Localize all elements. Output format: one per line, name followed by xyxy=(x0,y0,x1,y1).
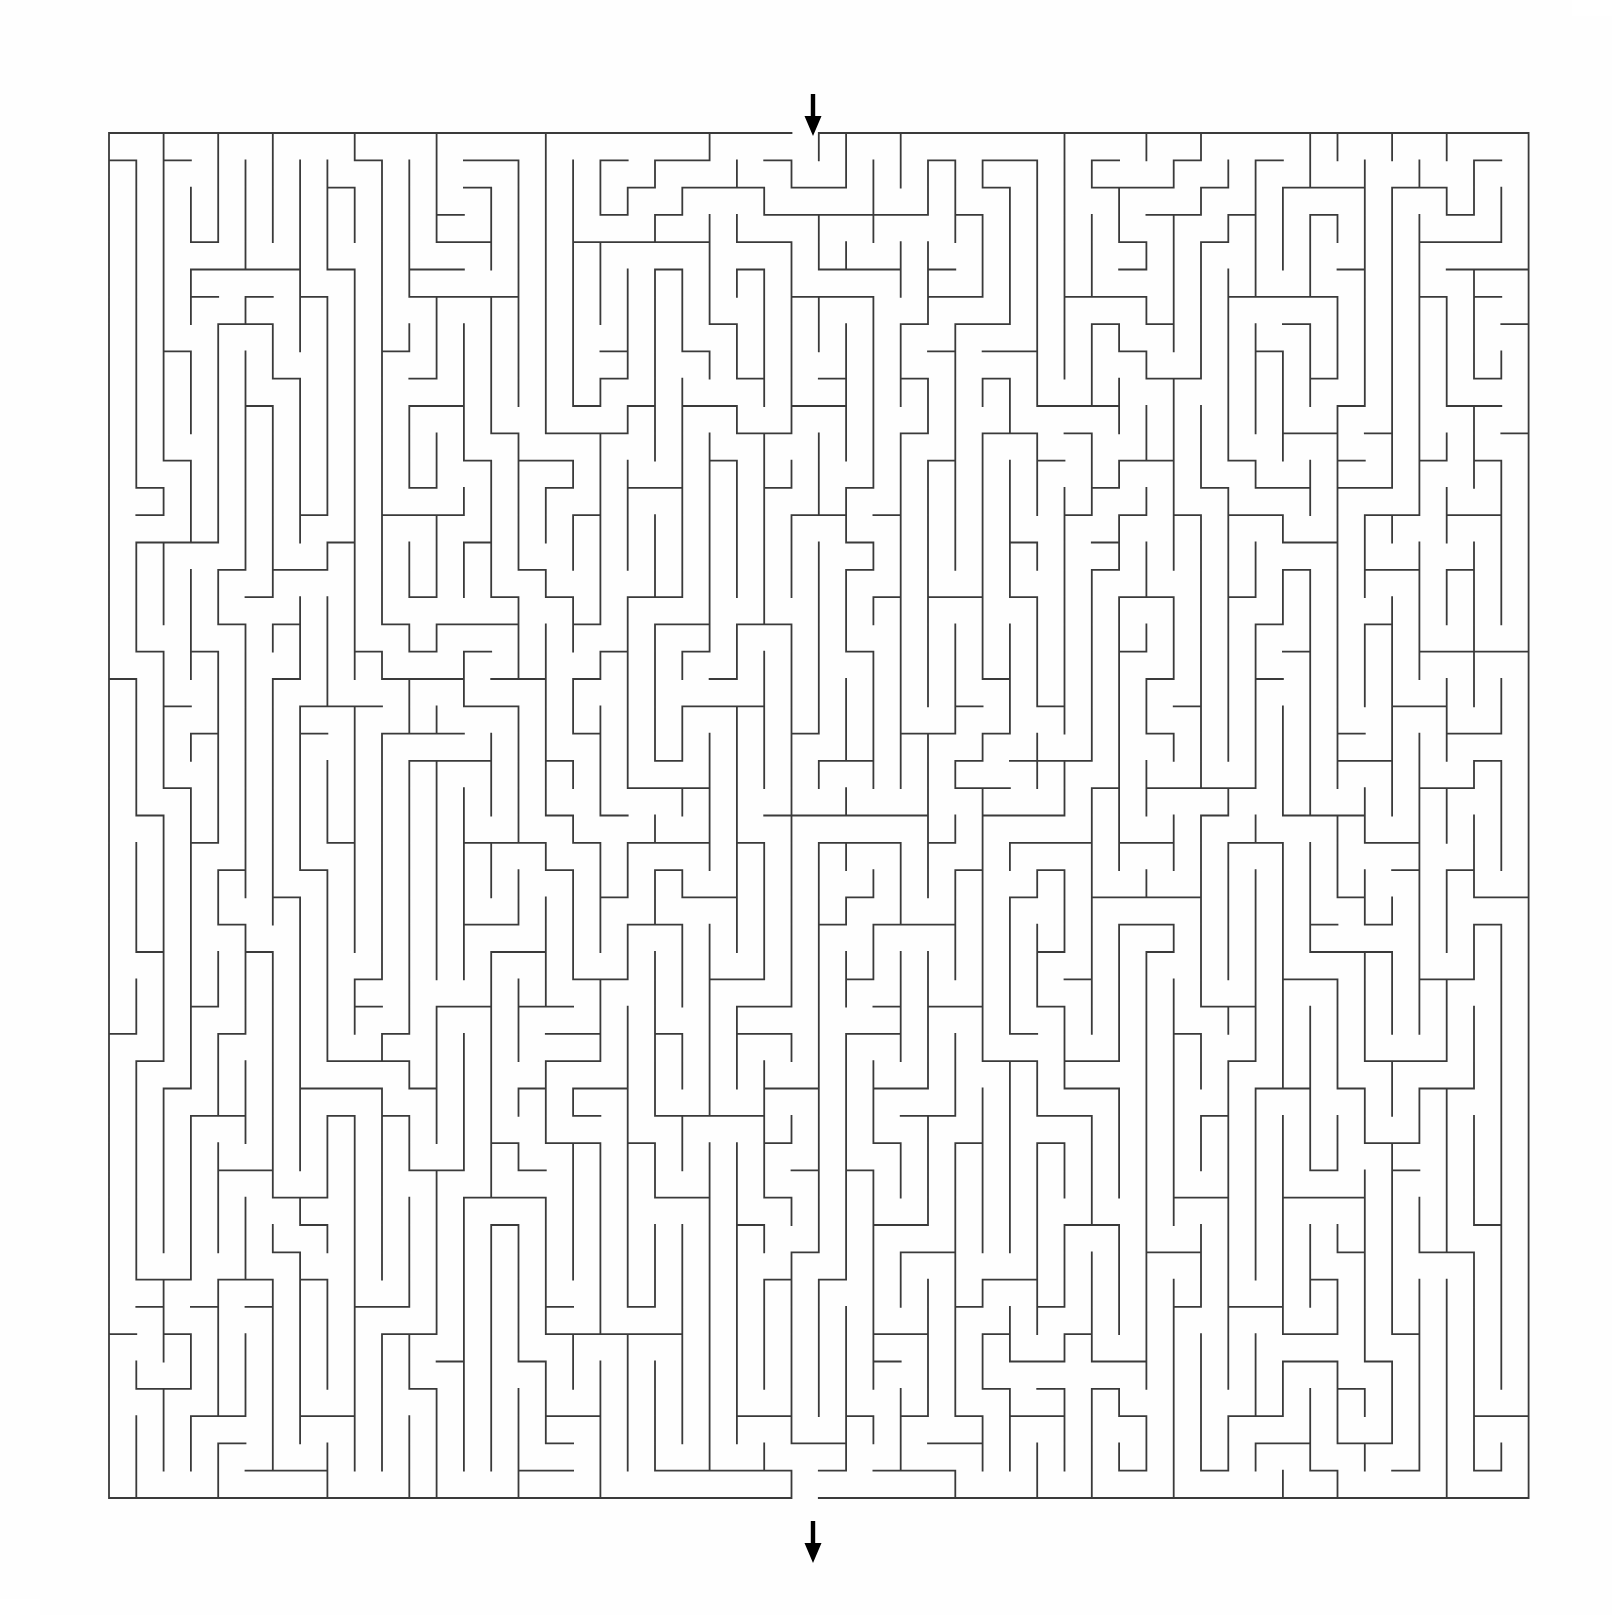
maze-canvas xyxy=(40,16,1612,1615)
maze-figure xyxy=(40,16,1612,1615)
